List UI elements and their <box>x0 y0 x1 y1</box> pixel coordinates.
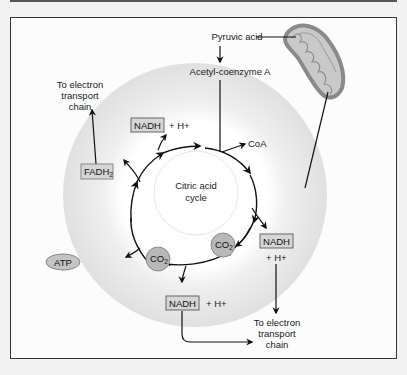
svg-text:transport: transport <box>258 328 296 339</box>
co2-circle-left: CO2 <box>146 247 170 271</box>
h-plus-top: + H+ <box>169 120 190 131</box>
co2-circle-right: CO2 <box>211 233 235 257</box>
svg-text:To electron: To electron <box>254 317 300 328</box>
svg-text:chain: chain <box>69 101 92 112</box>
svg-text:NADH: NADH <box>263 236 290 247</box>
svg-text:transport: transport <box>61 90 99 101</box>
citric-acid-cycle-diagram: Citric acid cycle Pyruvic acid Acetyl-co… <box>0 0 407 375</box>
nadh-box-top: NADH <box>131 118 164 132</box>
etc-label-right: To electron transport chain <box>254 317 300 350</box>
svg-text:NADH: NADH <box>134 120 161 131</box>
acetyl-coa-label: Acetyl-coenzyme A <box>190 66 271 77</box>
nadh-box-bottom: NADH <box>166 296 199 310</box>
svg-text:FADH2: FADH2 <box>84 166 113 178</box>
svg-text:To electron: To electron <box>57 79 103 90</box>
svg-text:chain: chain <box>266 339 289 350</box>
svg-text:ATP: ATP <box>54 257 72 268</box>
fadh2-box: FADH2 <box>81 164 113 179</box>
pyruvic-acid-label: Pyruvic acid <box>211 31 262 42</box>
h-plus-right: + H+ <box>266 252 287 263</box>
svg-text:NADH: NADH <box>169 298 196 309</box>
mitochondrion-icon <box>285 26 343 98</box>
h-plus-bottom: + H+ <box>206 298 227 309</box>
svg-text:cycle: cycle <box>185 192 207 203</box>
svg-text:Citric acid: Citric acid <box>175 180 217 191</box>
atp-ellipse: ATP <box>46 254 80 270</box>
nadh-box-right: NADH <box>260 234 293 248</box>
coa-label: CoA <box>248 138 267 149</box>
etc-label-topleft: To electron transport chain <box>57 79 103 112</box>
